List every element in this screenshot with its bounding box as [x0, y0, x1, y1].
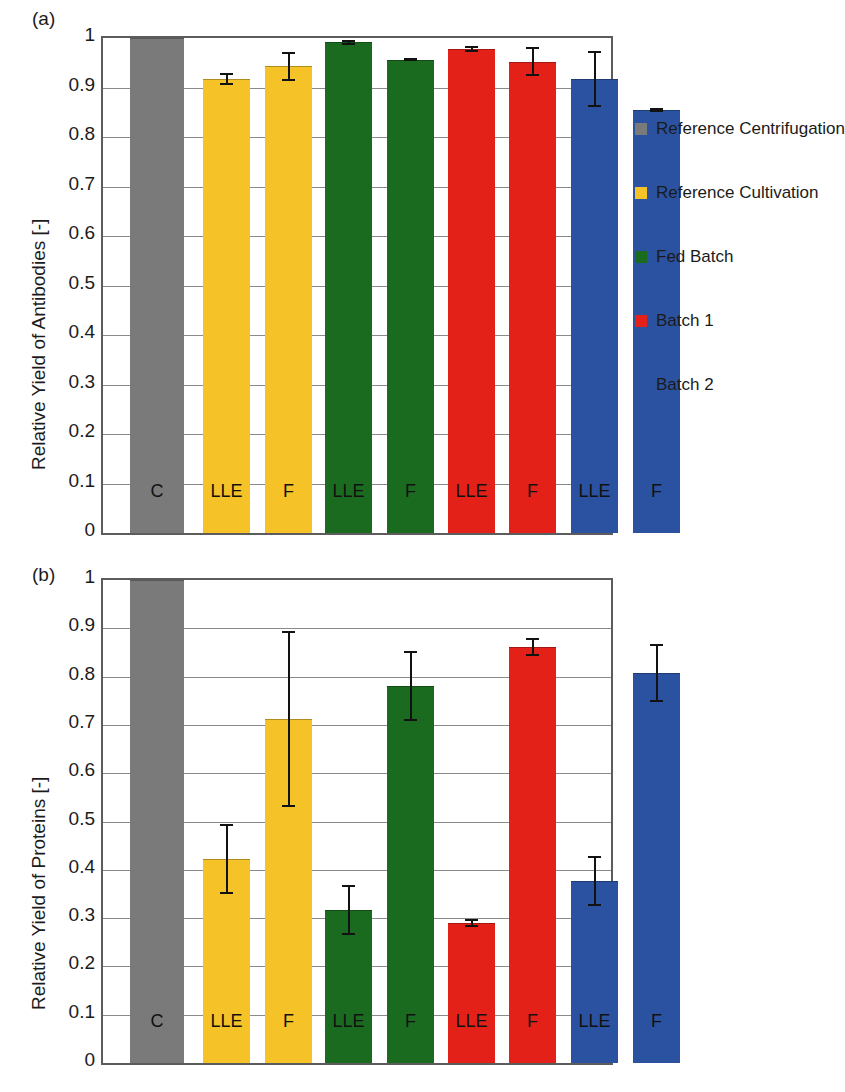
bar-lle-5 [448, 923, 495, 1063]
error-bar-cap-top [650, 644, 663, 646]
panel-b-bars: CLLEFLLEFLLEFLLEF [103, 580, 611, 1063]
y-tick-label: 0.4 [33, 321, 95, 343]
bar-f-6 [509, 647, 556, 1063]
error-bar-cap-top [465, 919, 478, 921]
y-tick-label: 0.6 [33, 759, 95, 781]
bar-f-2 [265, 66, 312, 533]
legend-label: Reference Cultivation [656, 184, 819, 201]
error-bar-cap-top [465, 46, 478, 48]
bar-cap [387, 60, 434, 61]
legend-swatch-icon [635, 251, 647, 263]
bar-f-8 [633, 673, 680, 1063]
y-tick-label: 0.1 [33, 470, 95, 492]
legend-label: Batch 1 [656, 312, 714, 329]
bar-f-2 [265, 719, 312, 1063]
bar-cap [265, 719, 312, 720]
y-tick-label: 0.7 [33, 711, 95, 733]
y-tick-label: 0.5 [33, 272, 95, 294]
error-bar-cap-top [588, 856, 601, 858]
bar-lle-3 [325, 42, 372, 533]
bar-cap [571, 881, 618, 882]
bar-cap [203, 859, 250, 860]
legend-swatch-icon [635, 315, 647, 327]
bar-c-0 [130, 580, 184, 1063]
bar-cap [265, 66, 312, 67]
error-bar-cap-top [220, 73, 233, 75]
bar-lle-7 [571, 881, 618, 1063]
y-tick-label: 0.7 [33, 173, 95, 195]
error-bar-cap-top [342, 885, 355, 887]
y-tick-label: 0 [33, 1049, 95, 1071]
y-tick-label: 0.3 [33, 904, 95, 926]
legend: Reference CentrifugationReference Cultiv… [635, 120, 831, 390]
legend-swatch-icon [635, 123, 647, 135]
bar-cap [633, 673, 680, 674]
y-tick-label: 0.1 [33, 1001, 95, 1023]
legend-item-fed-batch[interactable]: Fed Batch [635, 248, 734, 265]
bar-cap [130, 580, 184, 581]
bar-cap [633, 110, 680, 111]
y-tick-label: 0.2 [33, 420, 95, 442]
bar-f-6 [509, 62, 556, 533]
bar-cap [448, 49, 495, 50]
legend-item-batch-1[interactable]: Batch 1 [635, 312, 714, 329]
legend-swatch-icon [635, 187, 647, 199]
error-bar-cap-top [220, 824, 233, 826]
y-tick-label: 0.6 [33, 222, 95, 244]
legend-label: Reference Centrifugation [656, 120, 845, 137]
bar-lle-5 [448, 49, 495, 533]
bar-lle-1 [203, 859, 250, 1063]
bar-cap [387, 686, 434, 687]
bar-f-4 [387, 60, 434, 533]
bar-cap [325, 42, 372, 43]
legend-label: Batch 2 [656, 376, 714, 393]
y-tick-label: 0.8 [33, 123, 95, 145]
bar-cap [203, 79, 250, 80]
y-tick-label: 0.9 [33, 74, 95, 96]
y-tick-label: 1 [33, 566, 95, 588]
bar-f-4 [387, 686, 434, 1063]
bar-cap [571, 79, 618, 80]
bar-lle-3 [325, 910, 372, 1063]
error-bar-cap-top [404, 651, 417, 653]
panel-b-plot-area: CLLEFLLEFLLEFLLEF [101, 578, 613, 1065]
legend-item-batch-2[interactable]: Batch 2 [635, 376, 714, 393]
bar-cap [509, 647, 556, 648]
error-bar-cap-top [588, 51, 601, 53]
y-tick-label: 0.2 [33, 952, 95, 974]
bar-cap [448, 923, 495, 924]
legend-item-reference-centrifugation[interactable]: Reference Centrifugation [635, 120, 845, 137]
legend-swatch-icon [635, 379, 647, 391]
y-tick-label: 1 [33, 24, 95, 46]
bar-c-0 [130, 38, 184, 533]
bar-lle-7 [571, 79, 618, 533]
panel-a-plot-area: CLLEFLLEFLLEFLLEF [101, 36, 613, 535]
error-bar-cap-top [282, 631, 295, 633]
y-tick-label: 0.8 [33, 663, 95, 685]
error-bar-cap-top [526, 47, 539, 49]
error-bar-cap-top [282, 52, 295, 54]
legend-label: Fed Batch [656, 248, 734, 265]
bar-cap [130, 38, 184, 39]
legend-item-reference-cultivation[interactable]: Reference Cultivation [635, 184, 819, 201]
panel-a-bars: CLLEFLLEFLLEFLLEF [103, 38, 611, 533]
y-tick-label: 0.3 [33, 371, 95, 393]
bar-cap [509, 62, 556, 63]
bar-lle-1 [203, 79, 250, 533]
error-bar-cap-top [526, 638, 539, 640]
y-tick-label: 0.9 [33, 614, 95, 636]
bar-cap [325, 910, 372, 911]
y-tick-label: 0 [33, 519, 95, 541]
panel-b: (b) Relative Yield of Proteins [-] 10.90… [0, 548, 831, 1092]
y-tick-label: 0.5 [33, 808, 95, 830]
y-tick-label: 0.4 [33, 856, 95, 878]
